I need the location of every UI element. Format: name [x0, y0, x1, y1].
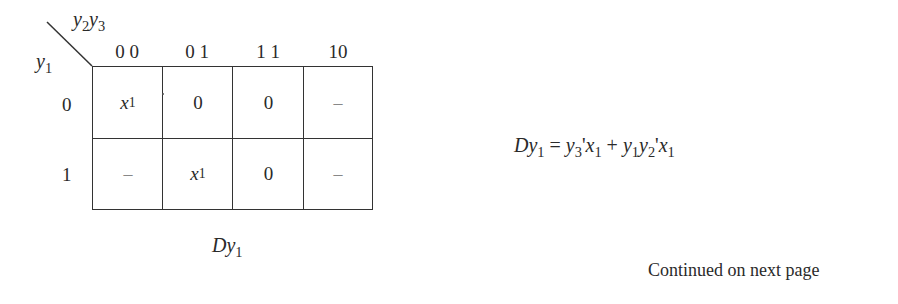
- cell-r0-c1: 0: [163, 67, 233, 139]
- eq-x1-sub: 1: [594, 144, 601, 160]
- eq-y3: y: [566, 134, 575, 156]
- eq-x1: x: [659, 134, 668, 156]
- kmap-caption: Dy1: [212, 234, 243, 261]
- row-header-1: 1: [62, 164, 72, 186]
- eq-y1-sub: 1: [632, 144, 639, 160]
- var-y: y: [36, 50, 45, 72]
- sub-3: 3: [98, 18, 105, 34]
- eq-lhs-sub: 1: [537, 144, 544, 160]
- cell-r0-c3: –: [304, 67, 372, 139]
- continued-note: Continued on next page: [648, 260, 819, 281]
- kmap-column-variables: y2y3: [73, 8, 105, 35]
- sub-1: 1: [129, 95, 136, 111]
- cell-r1-c2: 0: [233, 139, 304, 209]
- eq-plus: +: [607, 134, 618, 156]
- eq-y3-sub: 3: [575, 144, 582, 160]
- eq-y2: y: [639, 134, 648, 156]
- cell-r1-c0: –: [93, 139, 163, 209]
- sub-2: 2: [82, 18, 89, 34]
- cell-r1-c3: –: [304, 139, 372, 209]
- column-header-10: 10: [303, 41, 373, 63]
- row-header-0: 0: [62, 94, 72, 116]
- eq-y2-sub: 2: [648, 144, 655, 160]
- var-x: x: [190, 163, 198, 185]
- sub-1: 1: [45, 60, 52, 76]
- column-header-01: 0 1: [162, 41, 232, 63]
- eq-equals: =: [550, 134, 561, 156]
- cell-r0-c0: x1: [93, 67, 163, 139]
- boolean-equation: Dy1 = y3'x1 + y1y2'x1: [514, 134, 675, 161]
- var-x: x: [120, 92, 128, 114]
- caption-base: Dy: [212, 234, 235, 256]
- eq-x1-sub: 1: [668, 144, 675, 160]
- kmap-row-variable: y1: [36, 50, 52, 77]
- var-y: y: [73, 8, 82, 30]
- column-header-11: 1 1: [233, 41, 303, 63]
- kmap-grid: x1 0 0 – – x1 0 –: [92, 66, 373, 210]
- cell-r0-c2: 0: [233, 67, 304, 139]
- caption-sub: 1: [235, 244, 242, 260]
- cell-r1-c1: x1: [163, 139, 233, 209]
- sub-1: 1: [199, 166, 206, 182]
- eq-y1: y: [623, 134, 632, 156]
- var-y: y: [89, 8, 98, 30]
- eq-lhs: Dy: [514, 134, 537, 156]
- column-header-00: 0 0: [92, 41, 162, 63]
